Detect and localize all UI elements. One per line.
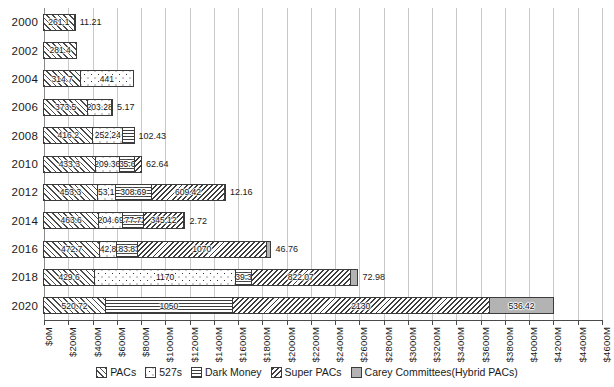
bar-row[interactable]: 2016472.7142.82183.83107046.76 (44, 241, 602, 258)
bar-segment[interactable]: 345.12 (143, 212, 185, 229)
gridline (602, 8, 603, 320)
bar-row[interactable]: 2014463.6204.69177.72345.122.72 (44, 212, 602, 229)
bar-segment[interactable]: 520.72 (43, 297, 106, 314)
bar-segment-value-label: 183.83 (116, 245, 138, 254)
bar-segment[interactable]: 153.13 (97, 184, 116, 201)
y-axis-category-label: 2006 (12, 101, 38, 113)
bar-segment[interactable]: 433.3 (43, 156, 96, 173)
bar-segment-value-label: 281.4 (49, 46, 70, 55)
x-axis-tick (238, 320, 239, 325)
bar-segment-value-label: 314.7 (51, 75, 72, 84)
bar-row[interactable]: 2012453.3153.13308.69609.4212.16 (44, 184, 602, 201)
bar-segment[interactable] (266, 241, 272, 258)
x-axis-tick (287, 320, 288, 325)
x-axis-tick (481, 320, 482, 325)
x-axis-tick-label: $2400M (334, 327, 345, 363)
x-axis-tick-label: $3800M (503, 327, 514, 363)
bar-segment[interactable]: 308.69 (115, 184, 152, 201)
bar-total-outside-label: 102.43 (139, 131, 167, 141)
x-axis-tick-label: $1200M (188, 327, 199, 363)
legend-item[interactable]: Super PACs (271, 366, 342, 378)
bar-segment[interactable]: 252.24 (92, 127, 123, 144)
bar-row[interactable]: 2004314.7441 (44, 70, 602, 87)
bar-segment[interactable]: 536.42 (489, 297, 554, 314)
bar-segment[interactable]: 281.4 (43, 42, 77, 59)
bar-segment-value-label: 1070 (192, 245, 211, 254)
bar-row[interactable]: 2020520.7210502130536.42 (44, 297, 602, 314)
bar-segment[interactable] (134, 156, 142, 173)
bar-segment[interactable]: 135.61 (119, 156, 135, 173)
legend-swatch-icon (351, 367, 362, 378)
bar-segment[interactable]: 203.28 (87, 99, 112, 116)
bar-segment[interactable]: 416.2 (43, 127, 93, 144)
y-axis-category-label: 2004 (12, 73, 38, 85)
bar-segment-value-label: 135.61 (119, 160, 135, 169)
x-axis-tick (117, 320, 118, 325)
x-axis-tick (359, 320, 360, 325)
bar-segment[interactable] (74, 14, 76, 31)
bar-segment[interactable]: 463.6 (43, 212, 99, 229)
bar-segment-value-label: 433.3 (59, 160, 80, 169)
x-axis-tick-label: $4200M (552, 327, 563, 363)
x-axis-tick (384, 320, 385, 325)
bar-segment[interactable] (122, 127, 134, 144)
x-axis-tick-label: $3200M (431, 327, 442, 363)
bar-segment[interactable] (350, 269, 359, 286)
bar-total-outside-label: 11.21 (80, 17, 102, 27)
x-axis-tick-label: $1800M (261, 327, 272, 363)
stacked-bar-chart: 2000261.111.212002281.42004314.744120063… (0, 0, 614, 387)
bar-row[interactable]: 2006373.5203.285.17 (44, 99, 602, 116)
bar-segment[interactable]: 1050 (105, 297, 232, 314)
bar-segment-value-label: 416.2 (58, 131, 79, 140)
x-axis-tick (68, 320, 69, 325)
bar-segment[interactable]: 453.3 (43, 184, 98, 201)
x-axis-tick-label: $2600M (358, 327, 369, 363)
x-axis-tick-label: $1000M (164, 327, 175, 363)
bar-segment[interactable]: 139.31 (235, 269, 252, 286)
bar-segment[interactable]: 177.72 (122, 212, 144, 229)
x-axis-tick (553, 320, 554, 325)
bar-segment[interactable]: 142.82 (99, 241, 116, 258)
bar-row[interactable]: 2002281.4 (44, 42, 602, 59)
bar-total-outside-label: 12.16 (230, 187, 253, 197)
legend-item[interactable]: PACs (96, 366, 136, 378)
bar-segment[interactable] (111, 99, 113, 116)
legend-item[interactable]: Dark Money (191, 366, 262, 378)
x-axis-tick (311, 320, 312, 325)
legend-swatch-icon (145, 367, 156, 378)
y-axis-category-label: 2008 (12, 130, 38, 142)
bar-segment[interactable]: 204.69 (98, 212, 123, 229)
bar-row[interactable]: 2018429.61170139.31822.0772.98 (44, 269, 602, 286)
legend-item[interactable]: Carey Committees(Hybrid PACs) (351, 366, 518, 378)
x-axis-tick-label: $2800M (382, 327, 393, 363)
legend-label: Super PACs (285, 366, 342, 378)
bar-segment-value-label: 177.72 (122, 216, 144, 225)
x-axis-tick (165, 320, 166, 325)
bar-segment-value-label: 609.42 (175, 188, 201, 197)
bar-segment[interactable] (224, 184, 226, 201)
bar-segment-value-label: 373.5 (55, 103, 76, 112)
bar-segment-value-label: 139.31 (235, 273, 252, 282)
bar-segment[interactable]: 314.7 (43, 70, 81, 87)
bar-row[interactable]: 2008416.2252.24102.43 (44, 127, 602, 144)
bar-segment[interactable]: 429.6 (43, 269, 95, 286)
bar-row[interactable]: 2010433.3209.36135.6162.64 (44, 156, 602, 173)
bar-segment[interactable]: 441 (80, 70, 133, 87)
bar-segment[interactable]: 1070 (137, 241, 267, 258)
bar-segment[interactable]: 472.7 (43, 241, 100, 258)
legend-swatch-icon (271, 367, 282, 378)
bar-row[interactable]: 2000261.111.21 (44, 14, 602, 31)
bar-segment[interactable]: 1170 (94, 269, 236, 286)
bar-segment-value-label: 252.24 (95, 131, 121, 140)
legend-item[interactable]: 527s (145, 366, 182, 378)
bar-segment[interactable]: 2130 (232, 297, 490, 314)
bar-segment[interactable]: 209.36 (95, 156, 120, 173)
bar-segment[interactable] (183, 212, 185, 229)
bar-segment[interactable]: 261.1 (43, 14, 75, 31)
bar-segment-value-label: 153.13 (97, 188, 116, 197)
bar-segment[interactable]: 373.5 (43, 99, 88, 116)
bar-segment[interactable]: 822.07 (251, 269, 351, 286)
bar-segment[interactable]: 609.42 (151, 184, 225, 201)
bar-segment[interactable]: 183.83 (116, 241, 138, 258)
x-axis-tick-label: $800M (140, 327, 151, 357)
